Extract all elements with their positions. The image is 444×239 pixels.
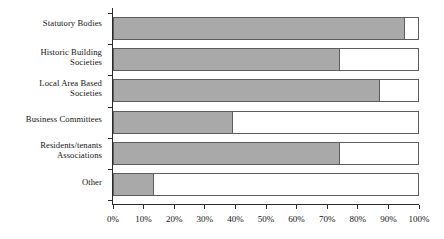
x-axis-tick bbox=[143, 205, 144, 209]
bar-other bbox=[113, 173, 419, 196]
category-label-residents-tenants-associations: Residents/tenants Associations bbox=[0, 141, 102, 160]
bar-residents-tenants-associations bbox=[113, 142, 419, 165]
x-axis-tick-label: 40% bbox=[227, 214, 244, 224]
bar-statutory-bodies bbox=[113, 17, 419, 40]
category-label-business-committees: Business Committees bbox=[0, 115, 102, 125]
bar-fill-historic-building-societies bbox=[114, 49, 340, 70]
y-axis-tick bbox=[108, 169, 113, 170]
category-label-line: Business Committees bbox=[0, 115, 102, 125]
x-axis-tick-label: 30% bbox=[197, 214, 214, 224]
x-axis-tick bbox=[327, 205, 328, 209]
category-label-line: Associations bbox=[0, 151, 102, 161]
category-axis-labels: Statutory Bodies Historic Building Socie… bbox=[0, 13, 108, 200]
bar-historic-building-societies bbox=[113, 48, 419, 71]
y-axis-tick bbox=[108, 107, 113, 108]
y-axis-tick bbox=[108, 138, 113, 139]
category-label-line: Societies bbox=[0, 58, 102, 68]
x-axis-tick-label: 60% bbox=[288, 214, 305, 224]
category-label-historic-building-societies: Historic Building Societies bbox=[0, 48, 102, 67]
x-axis-tick-label: 20% bbox=[166, 214, 183, 224]
x-axis-tick bbox=[235, 205, 236, 209]
x-axis-tick bbox=[204, 205, 205, 209]
x-axis-tick bbox=[113, 205, 114, 209]
bar-fill-business-committees bbox=[114, 112, 233, 133]
bar-fill-residents-tenants-associations bbox=[114, 143, 340, 164]
x-axis-tick bbox=[388, 205, 389, 209]
bar-business-committees bbox=[113, 111, 419, 134]
x-axis-tick bbox=[174, 205, 175, 209]
bar-local-area-based-societies bbox=[113, 79, 419, 102]
x-axis-tick-label: 0% bbox=[107, 214, 119, 224]
bar-fill-other bbox=[114, 174, 154, 195]
x-axis-tick-label: 70% bbox=[319, 214, 336, 224]
category-label-statutory-bodies: Statutory Bodies bbox=[0, 19, 102, 29]
x-axis-tick-label: 50% bbox=[258, 214, 275, 224]
y-axis-tick bbox=[108, 75, 113, 76]
x-axis-tick bbox=[296, 205, 297, 209]
category-label-local-area-based-societies: Local Area Based Societies bbox=[0, 79, 102, 98]
bar-chart: Statutory Bodies Historic Building Socie… bbox=[0, 0, 444, 239]
category-label-line: Statutory Bodies bbox=[0, 19, 102, 29]
y-axis-tick bbox=[108, 200, 113, 201]
y-axis-tick bbox=[108, 44, 113, 45]
x-axis-tick bbox=[266, 205, 267, 209]
bar-fill-statutory-bodies bbox=[114, 18, 405, 39]
bar-fill-local-area-based-societies bbox=[114, 80, 380, 101]
category-label-line: Societies bbox=[0, 89, 102, 99]
category-label-line: Other bbox=[0, 178, 102, 188]
x-axis-tick-label: 80% bbox=[350, 214, 367, 224]
plot-area: 0%10%20%30%40%50%60%70%80%90%100% bbox=[113, 13, 419, 200]
x-axis-tick bbox=[357, 205, 358, 209]
x-axis-tick-label: 10% bbox=[135, 214, 152, 224]
x-axis-tick-label: 100% bbox=[409, 214, 430, 224]
x-axis-tick bbox=[419, 205, 420, 209]
y-axis-tick bbox=[108, 13, 113, 14]
category-label-other: Other bbox=[0, 178, 102, 188]
x-axis-tick-label: 90% bbox=[380, 214, 397, 224]
